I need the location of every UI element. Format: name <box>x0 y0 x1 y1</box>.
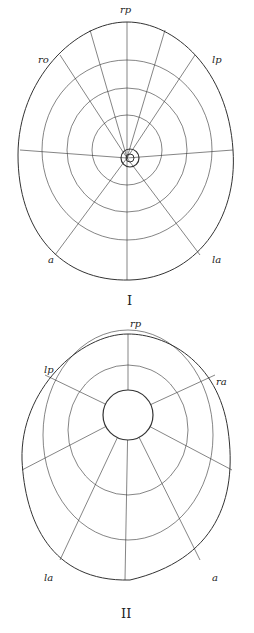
figure-caption-I: I <box>127 293 132 308</box>
label-rp: rp <box>120 4 131 15</box>
label-a: a <box>212 572 218 583</box>
figure-II: rp lp ra la a II <box>0 320 254 633</box>
label-ra: ra <box>216 376 227 387</box>
label-rp: rp <box>130 318 141 329</box>
test-diagram-II <box>0 320 254 633</box>
label-lp: lp <box>212 54 222 65</box>
label-la: la <box>44 572 53 583</box>
label-ro: ro <box>38 54 49 65</box>
label-lp: lp <box>44 364 54 375</box>
label-la: la <box>212 254 221 265</box>
figure-I: rp ro lp a la I <box>0 0 254 315</box>
label-a: a <box>48 254 54 265</box>
figure-caption-II: II <box>121 606 131 621</box>
test-diagram-I <box>0 0 254 315</box>
